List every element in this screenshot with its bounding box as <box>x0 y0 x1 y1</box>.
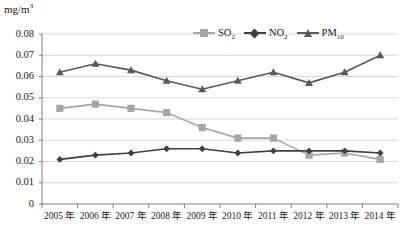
data-point-marker <box>56 105 63 112</box>
legend-swatch-triangle-icon <box>297 28 319 38</box>
data-point-marker <box>270 147 277 154</box>
y-axis-tick-label: 0 <box>0 199 34 210</box>
data-point-marker <box>91 60 99 67</box>
data-point-marker <box>377 156 384 163</box>
x-axis-tick-label: 2013 年 <box>327 212 363 222</box>
y-axis-tick-label: 0.06 <box>0 71 34 82</box>
air-quality-line-chart: mg/m3 00.010.020.030.040.050.060.070.08 … <box>0 0 405 242</box>
x-axis-tick-label: 2009 年 <box>184 212 220 222</box>
legend-swatch-square-icon <box>193 28 215 38</box>
data-point-marker <box>234 150 241 157</box>
x-axis-tick-label: 2005 年 <box>42 212 78 222</box>
data-point-marker <box>270 135 277 142</box>
data-point-marker <box>92 152 99 159</box>
data-point-marker <box>377 150 384 157</box>
x-axis-tick-label: 2014 年 <box>362 212 398 222</box>
legend-swatch-diamond-icon <box>244 28 266 38</box>
legend-item-so2[interactable]: SO2 <box>193 27 235 38</box>
y-axis-tick-label: 0.08 <box>0 29 34 40</box>
legend-item-no2[interactable]: NO2 <box>244 27 288 38</box>
data-point-marker <box>92 101 99 108</box>
chart-legend: SO2NO2PM10 <box>193 27 344 38</box>
y-axis-tick-label: 0.01 <box>0 177 34 188</box>
data-point-marker <box>163 109 170 116</box>
x-axis-tick-label: 2010 年 <box>220 212 256 222</box>
x-axis-tick-label: 2011 年 <box>256 212 292 222</box>
data-point-marker <box>234 135 241 142</box>
y-axis-tick-label: 0.04 <box>0 114 34 125</box>
data-point-marker <box>128 150 135 157</box>
y-axis-tick-label: 0.05 <box>0 92 34 103</box>
data-point-marker <box>269 68 277 75</box>
data-point-marker <box>163 145 170 152</box>
series-so2 <box>56 101 384 163</box>
series-pm10 <box>56 51 384 92</box>
data-point-marker <box>199 145 206 152</box>
legend-label: PM10 <box>322 27 344 38</box>
x-axis-tick-label: 2006 年 <box>78 212 114 222</box>
series-line <box>60 55 380 89</box>
data-point-marker <box>127 105 134 112</box>
data-point-marker <box>341 68 349 75</box>
x-axis-tick-label: 2008 年 <box>149 212 185 222</box>
y-axis-tick-label: 0.07 <box>0 50 34 61</box>
x-axis-tick-label: 2012 年 <box>291 212 327 222</box>
legend-label: NO2 <box>269 27 288 38</box>
x-axis-tick-label: 2007 年 <box>113 212 149 222</box>
y-axis-tick-label: 0.02 <box>0 156 34 167</box>
y-axis-tick-label: 0.03 <box>0 135 34 146</box>
data-point-marker <box>199 124 206 131</box>
legend-item-pm10[interactable]: PM10 <box>297 27 344 38</box>
legend-label: SO2 <box>218 27 235 38</box>
